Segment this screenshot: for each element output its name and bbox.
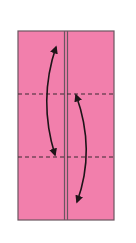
origami-diagram (0, 0, 136, 243)
paper-sheet (18, 31, 114, 220)
